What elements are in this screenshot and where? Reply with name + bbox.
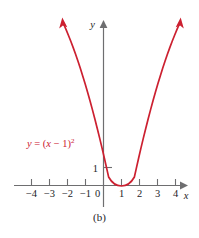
x-tick-label--3: −3 — [44, 188, 55, 199]
parabola-curve — [64, 24, 180, 186]
parabola-chart: −4 −3 −2 −1 1 2 3 4 0 1 y x y = (x − 1)2 — [0, 0, 199, 212]
figure-caption: (b) — [0, 211, 199, 223]
equation-exponent: 2 — [71, 137, 75, 145]
curve-right-arrow-icon — [176, 18, 184, 29]
equation-label: y = (x − 1)2 — [26, 137, 75, 150]
x-tick-label-2: 2 — [137, 188, 142, 199]
x-axis-arrow-icon — [180, 182, 188, 190]
x-tick-label-3: 3 — [155, 188, 160, 199]
figure-container: −4 −3 −2 −1 1 2 3 4 0 1 y x y = (x − 1)2… — [0, 0, 199, 238]
x-tick-label--2: −2 — [62, 188, 73, 199]
y-tick-label-1: 1 — [93, 163, 98, 174]
x-tick-label--4: −4 — [26, 188, 38, 199]
y-axis-label: y — [89, 19, 95, 30]
y-axis-arrow-icon — [100, 20, 108, 28]
x-tick-label--1: −1 — [80, 188, 91, 199]
x-tick-label-1: 1 — [119, 188, 124, 199]
origin-label: 0 — [95, 188, 100, 199]
curve-left-arrow-icon — [59, 18, 67, 29]
x-axis-label: x — [183, 190, 189, 201]
x-tick-label-4: 4 — [173, 188, 179, 199]
